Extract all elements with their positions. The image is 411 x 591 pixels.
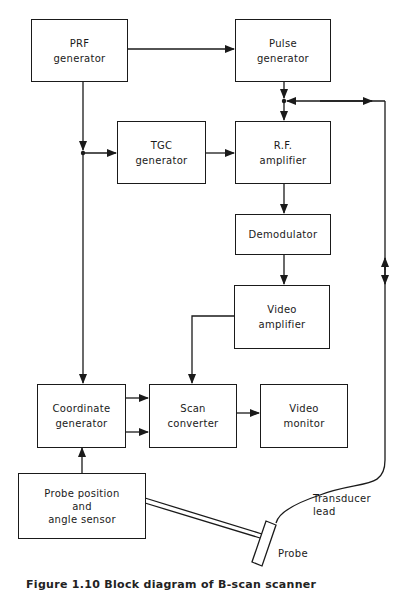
- monitor-label: Video: [289, 401, 319, 416]
- monitor-sublabel: monitor: [283, 416, 324, 431]
- tgc-generator-block: TGC generator: [117, 121, 206, 184]
- rf-sublabel: amplifier: [259, 153, 306, 168]
- scan-converter-block: Scan converter: [149, 384, 237, 448]
- rf-label: R.F.: [274, 138, 292, 153]
- demodulator-block: Demodulator: [235, 214, 331, 255]
- video-amplifier-block: Video amplifier: [234, 285, 330, 349]
- prf-label: PRF: [70, 36, 90, 51]
- prf-sublabel: generator: [53, 51, 105, 66]
- pulse-label: Pulse: [269, 36, 297, 51]
- tgc-label: TGC: [151, 138, 173, 153]
- pulse-sublabel: generator: [257, 51, 309, 66]
- probe-sensor-label-3: angle sensor: [48, 513, 116, 526]
- pulse-generator-block: Pulse generator: [235, 19, 331, 82]
- probe-sensor-label-1: Probe position: [44, 487, 119, 500]
- probe-sensor-label-2: and: [72, 500, 92, 513]
- transducer-lead-label: Transducer lead: [313, 492, 371, 518]
- demodulator-label: Demodulator: [249, 227, 318, 242]
- scan-sublabel: converter: [167, 416, 218, 431]
- coord-sublabel: generator: [55, 416, 107, 431]
- video-amp-sublabel: amplifier: [258, 317, 305, 332]
- figure-caption: Figure 1.10 Block diagram of B-scan scan…: [26, 578, 316, 591]
- probe-label: Probe: [278, 547, 308, 560]
- scan-label: Scan: [180, 401, 206, 416]
- probe-position-sensor-block: Probe position and angle sensor: [18, 473, 146, 539]
- rf-amplifier-block: R.F. amplifier: [235, 121, 331, 184]
- tgc-sublabel: generator: [135, 153, 187, 168]
- coord-label: Coordinate: [53, 401, 111, 416]
- video-monitor-block: Video monitor: [260, 384, 348, 448]
- video-amp-label: Video: [267, 302, 297, 317]
- prf-generator-block: PRF generator: [31, 19, 128, 82]
- coordinate-generator-block: Coordinate generator: [37, 384, 126, 448]
